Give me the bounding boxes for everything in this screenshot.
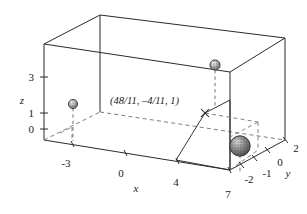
figure-container: 3 1 0 -3 0 4 7 2 0 -1 -2 z x y (48/11, –… [0,0,307,214]
x-tick-label-neg3: -3 [61,157,71,169]
z-tick-label-1: 1 [29,107,35,119]
x-axis-label: x [133,182,139,194]
z-tick-label-3: 3 [29,71,35,83]
internal-plane-hidden-top [205,113,258,122]
x-tick-label-0: 0 [118,167,124,179]
point-cross-marker [201,109,209,117]
base-dash-left-tick [60,127,72,133]
large-sphere-lower-right [230,136,250,156]
box-edge-bottom-front [44,140,230,170]
x-tick-label-4: 4 [173,176,179,188]
y-axis-label: y [285,167,291,179]
box-top-face-edges [44,15,285,72]
point-coordinate-label: (48/11, –4/11, 1) [110,95,180,107]
hidden-edge-back-bottom-long [100,112,285,140]
y-tick-label-neg2: -2 [244,173,253,185]
small-sphere-left [68,99,77,108]
z-tick-label-0: 0 [29,123,35,135]
sphere-drop-lines [73,70,240,172]
y-tick-label-2: 2 [293,142,299,154]
y-tick-label-neg1: -1 [262,167,271,179]
internal-plane-hidden-diagonal [230,122,258,137]
z-axis-label: z [19,94,25,106]
y-tick-label-0: 0 [277,156,283,168]
plotted-spheres [68,60,250,156]
coordinate-box-diagram: 3 1 0 -3 0 4 7 2 0 -1 -2 z x y (48/11, –… [0,0,307,214]
box-hidden-edges [44,112,285,140]
x-tick-label-7: 7 [225,188,231,200]
small-sphere-upper-right [210,60,220,70]
